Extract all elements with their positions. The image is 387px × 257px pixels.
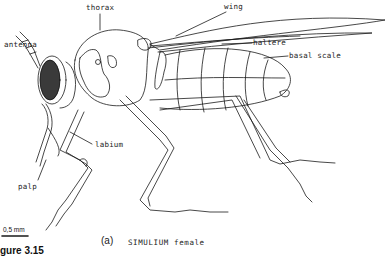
haltere-label: haltere <box>253 38 286 47</box>
palp-label: palp <box>18 182 37 191</box>
fore-leg-drawing <box>46 110 92 230</box>
thorax-label: thorax <box>86 3 114 12</box>
caption-text: SIMULIUM female <box>128 238 205 247</box>
basal-scale-label: basal scale <box>289 51 341 60</box>
labium-label: labium <box>95 140 123 149</box>
figure-number: gure 3.15 <box>0 245 44 256</box>
simulium-diagram <box>0 0 387 257</box>
hind-leg-drawing <box>150 96 335 202</box>
antenna-drawing <box>16 32 40 68</box>
mouthparts-drawing <box>36 104 59 166</box>
thorax-drawing <box>74 30 151 106</box>
mid-leg-drawing <box>120 96 228 212</box>
head-drawing <box>38 56 76 108</box>
scale-bar-label: 0,5 mm <box>3 226 25 233</box>
panel-letter: (a) <box>101 235 113 246</box>
antenna-label: antenna <box>4 40 37 49</box>
haltere-drawing <box>155 52 166 89</box>
wing-label: wing <box>224 2 243 11</box>
